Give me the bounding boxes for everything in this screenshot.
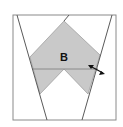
shape-label: B (60, 51, 68, 63)
diagram-canvas: B (0, 0, 123, 127)
